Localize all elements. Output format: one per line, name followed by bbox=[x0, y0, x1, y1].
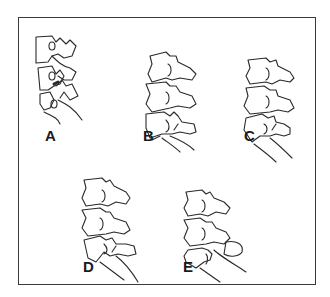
panel-label-b: B bbox=[143, 128, 154, 143]
panel-e-drawing bbox=[184, 190, 246, 282]
panel-a-drawing bbox=[36, 36, 82, 124]
panel-label-e: E bbox=[183, 259, 193, 274]
panel-c-drawing bbox=[244, 58, 294, 162]
panel-label-c: C bbox=[244, 128, 255, 143]
panel-label-d: D bbox=[83, 259, 94, 274]
panel-label-a: A bbox=[45, 128, 56, 143]
spine-illustrations bbox=[0, 0, 330, 297]
